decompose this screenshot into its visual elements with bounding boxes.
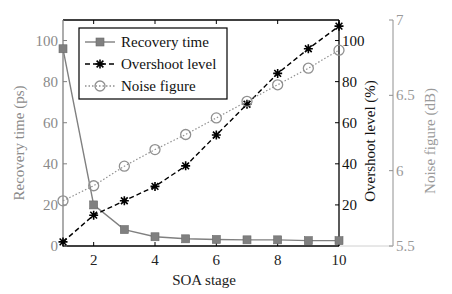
legend-recovery-time-label: Recovery time: [121, 34, 209, 50]
left-y-tick-label: 80: [43, 74, 58, 90]
recovery-time-square-marker: [90, 201, 98, 209]
legend-overshoot-level-label: Overshoot level: [121, 56, 216, 72]
x-tick-label: 2: [90, 252, 98, 268]
noise-figure-circle-marker: [211, 113, 221, 123]
overshoot-level-asterisk-marker: [212, 131, 221, 140]
left-y-tick-label: 60: [43, 115, 58, 131]
recovery-time-square-marker: [243, 236, 251, 244]
x-tick-label: 4: [151, 252, 159, 268]
right-overshoot-tick-label: 40: [342, 156, 357, 172]
left-y-axis-label: Recovery time (ps): [11, 86, 28, 201]
recovery-time-square-marker: [335, 237, 343, 245]
right-overshoot-tick-label: 60: [342, 115, 357, 131]
noise-figure-tick-label: 7: [396, 12, 404, 28]
noise-figure-axis-label: Noise figure (dB): [422, 88, 439, 194]
multi-axis-line-chart: 246810SOA stage020406080100Recovery time…: [0, 0, 452, 294]
left-y-tick-label: 40: [43, 156, 58, 172]
left-y-tick-label: 0: [51, 238, 59, 254]
recovery-time-square-marker: [212, 235, 220, 243]
x-tick-label: 8: [274, 252, 282, 268]
noise-figure-circle-marker: [181, 130, 191, 140]
overshoot-level-asterisk-marker: [243, 100, 252, 109]
legend-recovery-time-square-marker: [96, 38, 104, 46]
overshoot-level-asterisk-marker: [273, 69, 282, 78]
x-tick-label: 10: [332, 252, 347, 268]
overshoot-level-asterisk-marker: [89, 211, 98, 220]
recovery-time-square-marker: [182, 235, 190, 243]
left-y-tick-label: 100: [36, 33, 59, 49]
overshoot-level-asterisk-marker: [181, 161, 190, 170]
right-overshoot-tick-label: 80: [342, 74, 357, 90]
overshoot-level-asterisk-marker: [59, 237, 68, 246]
recovery-time-square-marker: [151, 233, 159, 241]
overshoot-level-asterisk-marker: [304, 44, 313, 53]
noise-figure-tick-label: 6.5: [396, 87, 415, 103]
overshoot-level-asterisk-marker: [120, 196, 129, 205]
recovery-time-square-marker: [274, 236, 282, 244]
right-overshoot-tick-label: 100: [342, 33, 365, 49]
chart-svg: 246810SOA stage020406080100Recovery time…: [0, 0, 452, 294]
noise-figure-circle-marker: [303, 63, 313, 73]
x-axis-label: SOA stage: [172, 272, 236, 288]
recovery-time-square-marker: [59, 45, 67, 53]
overshoot-level-asterisk-marker: [335, 22, 344, 31]
legend-noise-figure-label: Noise figure: [121, 78, 196, 94]
recovery-time-square-marker: [120, 226, 128, 234]
legend-overshoot-level-asterisk-marker: [96, 60, 105, 69]
noise-figure-tick-label: 6: [396, 163, 404, 179]
noise-figure-tick-label: 5.5: [396, 238, 415, 254]
right-overshoot-tick-label: 20: [342, 197, 357, 213]
left-y-tick-label: 20: [43, 197, 58, 213]
right-overshoot-axis-label: Overshoot level (%): [362, 80, 379, 202]
recovery-time-square-marker: [304, 237, 312, 245]
overshoot-level-asterisk-marker: [151, 182, 160, 191]
noise-figure-circle-marker: [273, 80, 283, 90]
x-tick-label: 6: [213, 252, 221, 268]
